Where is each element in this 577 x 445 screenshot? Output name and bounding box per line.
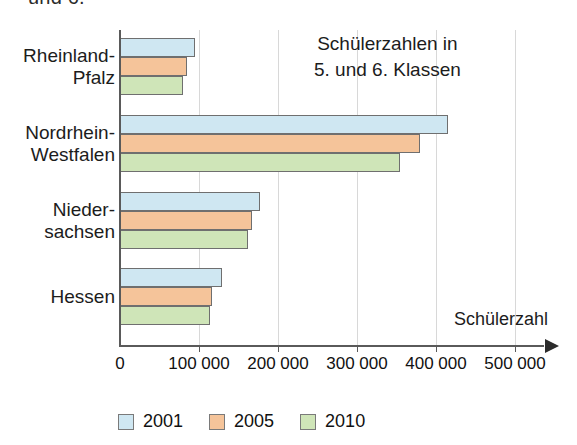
bar-2001-2 [120,115,448,134]
x-axis-tick [436,345,437,352]
legend-swatch-icon [118,414,134,430]
y-axis-line [119,30,121,347]
bar-2005-1 [120,57,187,76]
legend-swatch-icon [209,414,225,430]
x-axis-tick-label: 400 000 [405,354,466,374]
x-axis-tick [357,345,358,352]
bar-2005-4 [120,287,212,306]
category-label: Rheinland- Pfalz [23,45,115,89]
gridline [515,30,516,345]
bar-2001-1 [120,38,195,57]
bar-2001-3 [120,192,260,211]
x-axis-tick-label: 300 000 [326,354,387,374]
category-label: Nieder- sachsen [44,199,115,243]
category-label: Hessen [51,286,115,308]
category-label: Nordrhein- Westfalen [25,122,115,166]
legend-label: 2005 [234,411,274,432]
chart-annotation: Schülerzahlen in 5. und 6. Klassen [314,31,461,83]
bar-2005-3 [120,211,252,230]
legend-item-2005: 2005 [209,411,274,432]
x-axis-tick [515,345,516,352]
x-axis-tick-label: 100 000 [168,354,229,374]
x-axis-arrow-icon [545,339,559,353]
bar-2010-1 [120,76,183,95]
x-axis-tick-label: 0 [115,354,124,374]
legend-item-2001: 2001 [118,411,183,432]
x-axis-tick-label: 200 000 [247,354,308,374]
bar-2001-4 [120,268,222,287]
gridline [278,30,279,345]
bar-2010-2 [120,153,400,172]
x-axis-tick [278,345,279,352]
legend-label: 2010 [325,411,365,432]
x-axis-tick [199,345,200,352]
legend-label: 2001 [143,411,183,432]
bar-2005-2 [120,134,420,153]
legend-swatch-icon [300,414,316,430]
legend: 200120052010 [118,411,365,432]
bar-chart: Rheinland- PfalzNordrhein- WestfalenNied… [0,0,577,445]
x-axis-title: Schülerzahl [454,309,548,330]
x-axis-tick-label: 500 000 [484,354,545,374]
legend-item-2010: 2010 [300,411,365,432]
bar-2010-3 [120,230,248,249]
bar-2010-4 [120,306,210,325]
x-axis-line [119,345,544,347]
